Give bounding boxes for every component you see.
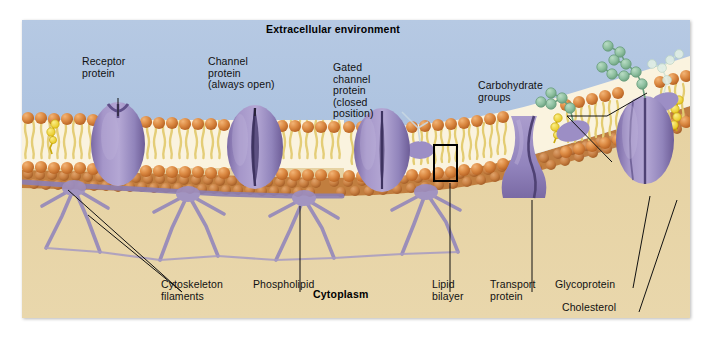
extracellular-environment-title: Extracellular environment [266,23,400,35]
label-gated-channel-protein: Gated channel protein (closed position) [333,62,374,120]
label-carbohydrate-groups: Carbohydrate groups [478,80,543,103]
channel-protein [227,105,283,189]
lipid-bilayer-flat [22,112,344,182]
label-cytoskeleton-filaments: Cytoskeleton filaments [161,279,223,302]
label-receptor-protein: Receptor protein [82,56,125,79]
cytoplasm-title: Cytoplasm [313,288,368,300]
peripheral-protein [406,141,434,159]
label-glycoprotein: Glycoprotein [555,279,615,291]
diagram-panel: Extracellular environment Cytoplasm Rece… [22,20,690,318]
label-transport-protein: Transport protein [490,279,535,302]
label-channel-protein: Channel protein (always open) [208,56,275,91]
glycoprotein [616,96,674,184]
label-phospholipid: Phospholipid [253,279,314,291]
gated-channel-protein [354,108,410,192]
cell-membrane-figure: Extracellular environment Cytoplasm Rece… [0,0,710,337]
label-lipid-bilayer: Lipid bilayer [432,279,464,302]
label-cholesterol: Cholesterol [562,302,616,314]
